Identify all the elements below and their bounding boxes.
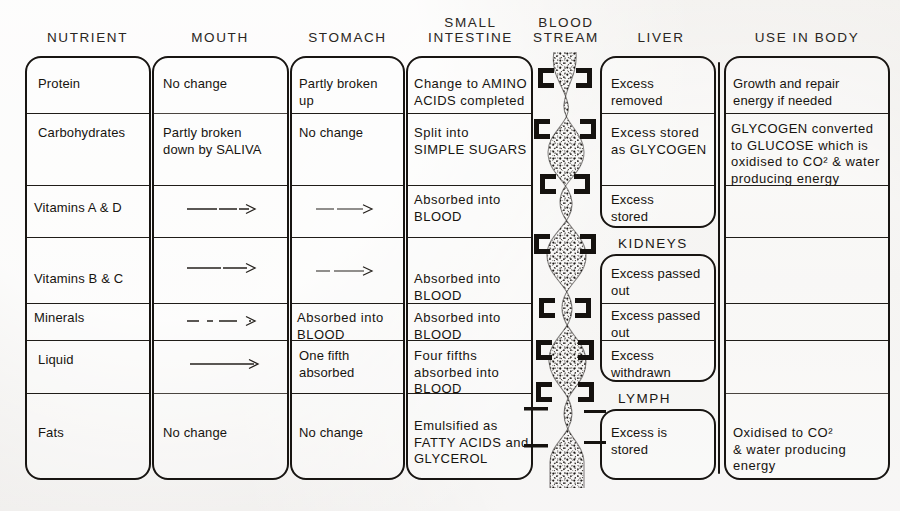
cell-nutrient: Carbohydrates <box>38 125 150 142</box>
column-outline-small-intestine <box>406 56 533 480</box>
row-divider <box>27 185 149 186</box>
cell-nutrient: Protein <box>38 76 148 93</box>
cell-small-intestine: Four fifths absorbed into BLOOD <box>414 348 536 398</box>
row-divider <box>726 340 888 341</box>
organ-label-lymph: LYMPH <box>618 391 671 406</box>
cell-nutrient: Vitamins A & D <box>34 200 150 217</box>
column-outline-use-in-body <box>724 56 890 480</box>
cell-liver: Excess is stored <box>611 425 717 458</box>
cell-liver: Excess stored as GLYCOGEN <box>611 125 719 158</box>
cell-stomach: Partly broken up <box>299 76 405 109</box>
digestion-table-diagram: NUTRIENT MOUTH STOMACH SMALL INTESTINE B… <box>0 0 900 511</box>
row-divider <box>154 340 287 341</box>
column-header-liver: LIVER <box>606 30 716 45</box>
row-divider <box>292 237 403 238</box>
cell-use-in-body: Growth and repair energy if needed <box>733 76 891 109</box>
row-divider <box>154 393 287 394</box>
cell-liver: Excess withdrawn <box>611 348 717 381</box>
row-divider <box>27 237 149 238</box>
cell-mouth: No change <box>163 76 285 93</box>
organ-label-kidneys: KIDNEYS <box>618 236 688 251</box>
cell-nutrient: Fats <box>38 425 150 442</box>
row-divider <box>408 113 531 114</box>
row-divider <box>154 113 287 114</box>
cell-liver: Excess passed out <box>611 266 717 299</box>
row-divider <box>292 303 403 304</box>
row-divider <box>726 303 888 304</box>
row-divider <box>726 113 888 114</box>
row-divider <box>292 185 403 186</box>
column-outline-nutrient <box>25 56 151 480</box>
cell-small-intestine: Absorbed into BLOOD <box>414 192 536 225</box>
cell-small-intestine: Absorbed into BLOOD <box>414 271 536 304</box>
column-divider-double-line <box>718 62 720 474</box>
cell-liver: Excess stored <box>611 192 715 225</box>
cell-liver: Excess removed <box>611 76 717 109</box>
cell-use-in-body: Oxidised to CO² & water producing energy <box>733 425 891 475</box>
row-divider <box>292 113 403 114</box>
cell-stomach: Absorbed into BLOOD <box>297 310 405 343</box>
row-divider <box>154 303 287 304</box>
row-divider <box>154 237 287 238</box>
cell-small-intestine: Change to AMINO ACIDS completed <box>414 76 536 109</box>
row-divider <box>602 185 714 186</box>
row-divider <box>27 340 149 341</box>
row-divider <box>408 237 531 238</box>
row-divider <box>602 303 714 304</box>
row-divider <box>27 303 149 304</box>
cell-stomach: One fifth absorbed <box>299 348 405 381</box>
column-header-use-in-body: USE IN BODY <box>722 30 892 45</box>
arrow-icon-mouth <box>185 203 263 215</box>
row-divider <box>726 393 888 394</box>
cell-stomach: No change <box>299 125 405 142</box>
cell-nutrient: Vitamins B & C <box>34 271 150 288</box>
cell-small-intestine: Split into SIMPLE SUGARS <box>414 125 536 158</box>
row-divider <box>27 113 149 114</box>
arrow-icon-mouth <box>188 358 266 370</box>
cell-mouth: No change <box>163 425 285 442</box>
cell-use-in-body: GLYCOGEN converted to GLUCOSE which is o… <box>731 121 893 187</box>
column-header-stomach: STOMACH <box>291 30 404 45</box>
row-divider <box>408 185 531 186</box>
row-divider <box>292 393 403 394</box>
cell-small-intestine: Emulsified as FATTY ACIDS and GLYCEROL <box>414 418 538 468</box>
arrow-icon-stomach <box>314 203 380 215</box>
row-divider <box>726 237 888 238</box>
cell-liver: Excess passed out <box>611 308 717 341</box>
arrow-icon-mouth <box>185 262 263 274</box>
column-header-small-intestine: SMALL INTESTINE <box>408 15 533 45</box>
row-divider <box>602 113 714 114</box>
row-divider <box>154 185 287 186</box>
arrow-icon-mouth <box>185 315 263 327</box>
column-header-mouth: MOUTH <box>153 30 287 45</box>
cell-small-intestine: Absorbed into BLOOD <box>414 310 536 343</box>
row-divider <box>27 393 149 394</box>
cell-stomach: No change <box>299 425 405 442</box>
column-header-blood-stream: BLOOD STREAM <box>524 15 608 45</box>
cell-nutrient: Minerals <box>34 310 150 327</box>
arrow-icon-stomach <box>314 265 380 277</box>
cell-nutrient: Liquid <box>38 352 150 369</box>
column-header-nutrient: NUTRIENT <box>26 30 149 45</box>
cell-mouth: Partly broken down by SALIVA <box>163 125 291 158</box>
